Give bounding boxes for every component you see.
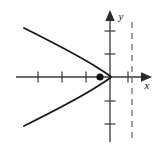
parabola-figure: x y — [0, 0, 165, 151]
y-axis-label: y — [118, 10, 124, 22]
x-axis-label: x — [144, 79, 150, 91]
graph-canvas: x y — [0, 0, 165, 151]
figure-background — [0, 0, 165, 151]
focus-point-dot — [96, 73, 103, 80]
